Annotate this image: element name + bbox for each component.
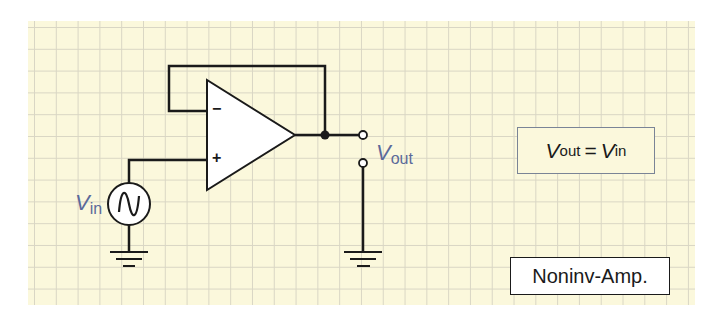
noninverting-input-sign: + — [212, 149, 221, 167]
formula-box: Vout = Vin — [517, 127, 655, 174]
inverting-input-sign: − — [212, 100, 221, 118]
output-terminal-top — [359, 131, 367, 139]
vout-label: Vout — [376, 140, 413, 168]
ground-icon — [110, 252, 148, 266]
ground-icon — [344, 252, 382, 266]
junction-dot — [321, 131, 330, 140]
op-amp-triangle — [207, 80, 295, 190]
circuit-name-label: Noninv-Amp. — [510, 257, 670, 295]
input-wire — [129, 160, 207, 183]
output-terminal-bottom — [359, 159, 367, 167]
vin-label: Vin — [75, 190, 102, 218]
